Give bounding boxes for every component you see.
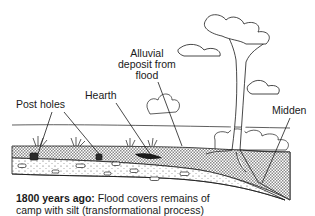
leader-alluvial: [158, 82, 182, 146]
figure-caption: 1800 years ago: Flood covers remains of …: [16, 192, 210, 216]
caption-bold: 1800 years ago:: [16, 192, 95, 204]
alluvial-label-line3: flood: [118, 70, 176, 81]
post-holes-label: Post holes: [16, 99, 65, 110]
midden-label: Midden: [272, 105, 306, 116]
horizon-line: [12, 125, 290, 128]
caption-line1-rest: Flood covers remains of: [95, 192, 210, 204]
caption-line1: 1800 years ago: Flood covers remains of: [16, 192, 210, 204]
hearth-label: Hearth: [85, 90, 117, 101]
alluvial-label: Alluvial deposit from flood: [118, 48, 176, 81]
background-bush: [147, 94, 289, 150]
caption-line2: camp with silt (transformational process…: [16, 204, 210, 216]
grass-tufts: [33, 136, 157, 146]
